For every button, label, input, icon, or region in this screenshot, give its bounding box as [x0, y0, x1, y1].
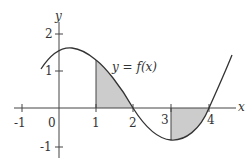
- x-tick-label: -1: [14, 116, 26, 130]
- y-tick-label: -1: [40, 140, 52, 154]
- x-tick-label: 4: [207, 113, 215, 127]
- y-tick-label: 1: [45, 64, 53, 78]
- y-tick-label: 2: [45, 27, 53, 41]
- x-tick-label: 2: [129, 116, 137, 130]
- x-tick-label: 1: [92, 116, 100, 130]
- x-axis-label: x: [238, 100, 245, 114]
- y-axis-label: y: [54, 9, 62, 23]
- x-tick-label: 0: [48, 116, 56, 130]
- x-tick-label: 3: [161, 113, 169, 127]
- function-graph: -1 0 1 2 3 4 2 1 -1 x y y = f(x): [0, 0, 250, 163]
- curve-label: y = f(x): [111, 60, 157, 74]
